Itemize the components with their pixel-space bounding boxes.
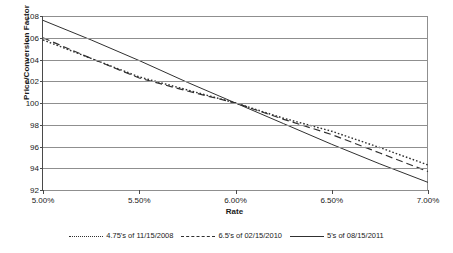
- y-tick-label: 106: [26, 33, 39, 42]
- y-tick-label: 100: [26, 99, 39, 108]
- series-line: [43, 38, 428, 172]
- y-tick-mark: [40, 147, 43, 148]
- chart-legend: 4.75's of 11/15/20086.5's of 02/15/20105…: [0, 231, 453, 240]
- legend-line-swatch-icon: [69, 232, 103, 239]
- legend-line-swatch-icon: [181, 232, 215, 239]
- y-tick-label: 102: [26, 77, 39, 86]
- x-axis-title: Rate: [42, 207, 427, 216]
- x-tick-mark: [428, 190, 429, 194]
- gridline-y: [43, 38, 428, 39]
- gridline-y: [43, 125, 428, 126]
- y-tick-mark: [40, 81, 43, 82]
- y-tick-mark: [40, 125, 43, 126]
- series-line: [43, 20, 428, 182]
- y-tick-label: 104: [26, 55, 39, 64]
- y-tick-mark: [40, 60, 43, 61]
- legend-line-swatch-icon: [290, 232, 324, 239]
- legend-label: 5's of 08/15/2011: [327, 231, 384, 240]
- y-tick-mark: [40, 38, 43, 39]
- x-tick-label: 6.00%: [224, 196, 247, 205]
- y-tick-label: 92: [30, 186, 39, 195]
- legend-item[interactable]: 6.5's of 02/15/2010: [181, 231, 282, 240]
- y-tick-label: 108: [26, 12, 39, 21]
- x-tick-mark: [236, 190, 237, 194]
- legend-item[interactable]: 4.75's of 11/15/2008: [69, 231, 173, 240]
- x-tick-label: 5.00%: [32, 196, 55, 205]
- legend-label: 6.5's of 02/15/2010: [218, 231, 282, 240]
- gridline-y: [43, 168, 428, 169]
- y-tick-mark: [40, 168, 43, 169]
- gridline-y: [43, 103, 428, 104]
- x-tick-label: 6.50%: [320, 196, 343, 205]
- x-tick-label: 5.50%: [128, 196, 151, 205]
- x-tick-mark: [139, 190, 140, 194]
- gridline-y: [43, 16, 428, 17]
- gridline-y: [43, 60, 428, 61]
- legend-label: 4.75's of 11/15/2008: [106, 231, 173, 240]
- y-tick-label: 96: [30, 142, 39, 151]
- y-tick-label: 98: [30, 120, 39, 129]
- plot-area: 929496981001021041061085.00%5.50%6.00%6.…: [42, 16, 428, 191]
- y-tick-mark: [40, 16, 43, 17]
- x-tick-mark: [332, 190, 333, 194]
- legend-item[interactable]: 5's of 08/15/2011: [290, 231, 384, 240]
- x-tick-mark: [43, 190, 44, 194]
- y-tick-mark: [40, 103, 43, 104]
- gridline-y: [43, 147, 428, 148]
- y-tick-label: 94: [30, 164, 39, 173]
- price-conversion-factor-chart: Price/Conversion Factor 9294969810010210…: [0, 0, 453, 253]
- gridline-y: [43, 81, 428, 82]
- x-tick-label: 7.00%: [417, 196, 440, 205]
